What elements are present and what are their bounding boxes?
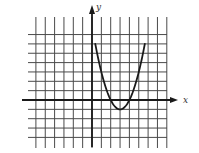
grid-horizontal-lines [28,35,167,138]
x-axis-label: x [183,95,188,105]
y-axis-arrow-icon [89,5,95,14]
y-axis [89,5,95,147]
coordinate-plane: x y [0,0,199,153]
y-axis-label: y [95,2,102,12]
x-axis-arrow-icon [170,97,178,103]
